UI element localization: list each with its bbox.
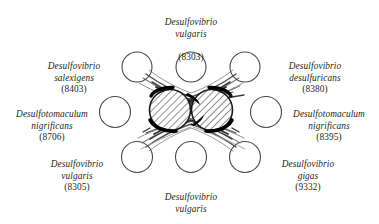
label-mid-left-species: Desulfotomaculum nigrificans <box>16 109 88 130</box>
label-bottom-right: Desulfovibrio gigas (9332) <box>262 148 354 194</box>
label-top-center: Desulfovibrio vulgaris (8303) <box>142 6 240 63</box>
label-top-right: Desulfovibrio desulfuricans (8380) <box>256 50 374 96</box>
label-mid-left: Desulfotomaculum nigrificans (8706) <box>2 98 102 144</box>
label-bottom-center: Desulfovibrio vulgaris (8303) <box>142 181 240 224</box>
label-bottom-right-strain: (9332) <box>295 182 320 192</box>
circle-bottom-right <box>230 142 261 173</box>
label-top-right-species: Desulfovibrio desulfuricans <box>289 61 341 82</box>
label-top-center-species: Desulfovibrio vulgaris <box>165 17 217 38</box>
label-top-left: Desulfovibrio salexigens (8403) <box>18 50 130 96</box>
label-bottom-right-species: Desulfovibrio gigas <box>282 159 334 180</box>
label-top-left-strain: (8403) <box>61 84 86 94</box>
label-mid-right: Desulfotomaculum nigrificans (8395) <box>279 98 379 144</box>
label-bottom-left: Desulfovibrio vulgaris (8305) <box>32 148 122 194</box>
label-mid-right-strain: (8395) <box>316 132 341 142</box>
label-top-center-strain: (8303) <box>178 52 203 62</box>
figure-canvas: Desulfovibrio vulgaris (8303) Desulfovib… <box>0 0 379 224</box>
label-bottom-center-species: Desulfovibrio vulgaris <box>165 192 217 213</box>
label-bottom-left-strain: (8305) <box>64 182 89 192</box>
label-top-right-strain: (8380) <box>302 84 327 94</box>
label-bottom-left-species: Desulfovibrio vulgaris <box>51 159 103 180</box>
circle-bottom-left <box>122 142 153 173</box>
label-top-left-species: Desulfovibrio salexigens <box>48 61 100 82</box>
circle-mid-right <box>251 97 282 128</box>
circle-bottom-center <box>176 142 207 173</box>
circle-mid-left <box>100 97 131 128</box>
label-mid-right-species: Desulfotomaculum nigrificans <box>293 109 365 130</box>
label-mid-left-strain: (8706) <box>39 132 64 142</box>
